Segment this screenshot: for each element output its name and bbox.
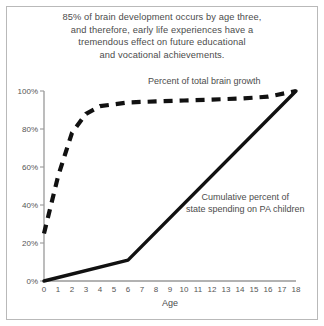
chart-title-line-3: tremendous effect on future educational [24,36,300,49]
x-tick-label: 6 [126,285,130,294]
x-tick-label: 1 [56,285,60,294]
x-tick-label: 10 [180,285,189,294]
x-tick-label: 13 [222,285,231,294]
x-tick-label: 5 [112,285,116,294]
annotation-state-spending-line-1: Cumulative percent of [186,192,304,204]
axes [40,91,296,281]
data-series [44,91,296,281]
chart-title-line-1: 85% of brain development occurs by age t… [24,11,300,24]
annotation-state-spending: Cumulative percent of state spending on … [186,192,304,215]
chart-title-line-2: and therefore, early life experiences ha… [24,24,300,37]
x-tick-label: 12 [208,285,217,294]
y-tick-label: 60% [22,163,38,172]
x-tick-label: 16 [264,285,273,294]
y-tick-label: 0% [26,277,38,286]
y-tick-label: 80% [22,125,38,134]
x-tick-label: 18 [292,285,301,294]
x-tick-label: 2 [70,285,74,294]
x-tick-label: 9 [168,285,172,294]
y-tick-label: 40% [22,201,38,210]
plot-area: 0%20%40%60%80%100% 012345678910111213141… [44,91,296,281]
x-tick-label: 4 [98,285,102,294]
x-tick-label: 7 [140,285,144,294]
series-line-2 [44,91,296,281]
x-tick-label: 17 [278,285,287,294]
x-tick-label: 14 [236,285,245,294]
x-axis-title: Age [162,298,178,308]
x-tick-label: 11 [194,285,202,294]
x-tick-label: 3 [84,285,88,294]
annotation-state-spending-line-2: state spending on PA children [186,204,304,216]
y-tick-label: 20% [22,239,38,248]
y-tick-label: 100% [18,87,38,96]
annotation-brain-growth: Percent of total brain growth [148,76,261,88]
chart-figure: 85% of brain development occurs by age t… [0,0,324,326]
x-tick-label: 0 [42,285,46,294]
chart-title-line-4: and vocational achievements. [24,49,300,62]
x-tick-label: 15 [250,285,259,294]
chart-title: 85% of brain development occurs by age t… [24,11,300,61]
x-tick-label: 8 [154,285,158,294]
plot-svg [44,91,296,281]
